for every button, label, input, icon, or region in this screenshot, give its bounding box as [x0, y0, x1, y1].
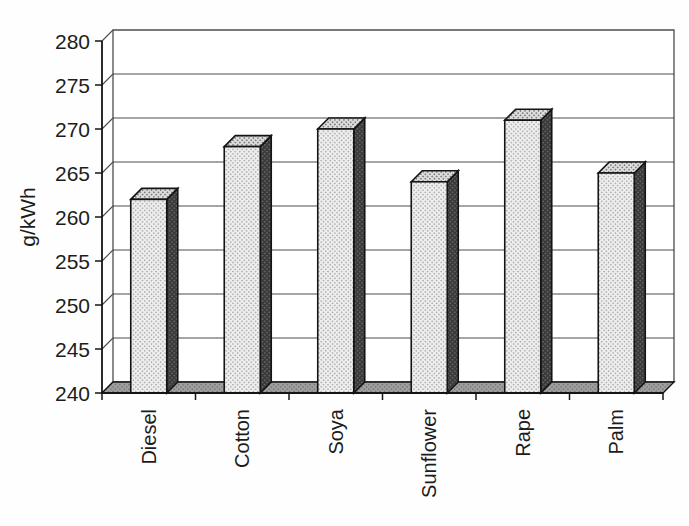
category-label-soya: Soya: [325, 408, 347, 454]
bar-side-sunflower: [447, 171, 458, 393]
category-label-palm: Palm: [605, 409, 627, 455]
bar-chart-3d-figure: 240245250255260265270275280DieselCottonS…: [0, 0, 689, 526]
bar-side-cotton: [260, 136, 271, 393]
bar-rape: [505, 120, 541, 393]
depth-connector-245: [102, 338, 113, 349]
depth-connector-250: [102, 294, 113, 305]
chart-floor: [102, 382, 674, 393]
bar-diesel: [131, 199, 167, 393]
bar-palm: [598, 173, 634, 393]
y-tick-label-280: 280: [55, 30, 90, 53]
bar-side-soya: [354, 118, 365, 393]
depth-connector-280: [102, 30, 113, 41]
depth-connector-275: [102, 74, 113, 85]
category-label-sunflower: Sunflower: [418, 409, 440, 498]
y-tick-label-240: 240: [55, 382, 90, 405]
y-tick-label-265: 265: [55, 162, 90, 185]
bar-side-palm: [634, 162, 645, 393]
depth-connector-265: [102, 162, 113, 173]
y-axis-title: g/kWh: [16, 187, 39, 247]
category-label-cotton: Cotton: [231, 409, 253, 468]
bar-sunflower: [411, 182, 447, 393]
category-label-rape: Rape: [512, 409, 534, 457]
depth-connector-270: [102, 118, 113, 129]
y-tick-label-245: 245: [55, 338, 90, 361]
depth-connector-255: [102, 250, 113, 261]
bar-side-rape: [541, 109, 552, 393]
y-tick-label-250: 250: [55, 294, 90, 317]
bar-soya: [318, 129, 354, 393]
depth-connector-260: [102, 206, 113, 217]
bar-cotton: [224, 147, 260, 393]
category-label-diesel: Diesel: [138, 409, 160, 465]
y-tick-label-275: 275: [55, 74, 90, 97]
y-tick-label-270: 270: [55, 118, 90, 141]
y-tick-label-255: 255: [55, 250, 90, 273]
bar-side-diesel: [167, 188, 178, 393]
y-tick-label-260: 260: [55, 206, 90, 229]
scanned-page: 240245250255260265270275280DieselCottonS…: [0, 0, 689, 526]
chart-canvas: 240245250255260265270275280DieselCottonS…: [0, 0, 689, 526]
